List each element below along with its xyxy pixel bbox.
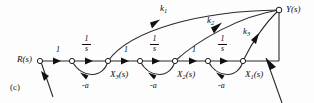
feedback-loops <box>72 61 243 80</box>
node-y[interactable] <box>276 7 282 13</box>
arrowhead-forward-6 <box>220 57 228 64</box>
gain-numerator-a: 1 <box>82 35 91 43</box>
node-label-x1: X1(s) <box>245 70 263 81</box>
node-n1[interactable] <box>69 58 74 63</box>
cropped-connector-left <box>41 62 53 97</box>
gain-denominator-c: s <box>218 45 227 53</box>
feedback-gain-label-2: -a <box>150 82 157 90</box>
gain-label-1-over-s-b: 1 s <box>150 35 159 54</box>
output-gain-label-k1: k1 <box>160 4 167 15</box>
arrowhead-forward-3 <box>121 57 129 64</box>
node-label-x2-tail: (s) <box>186 69 196 79</box>
node-x3[interactable] <box>105 58 110 63</box>
k2-sub: 2 <box>211 19 214 26</box>
feedback-loop-1 <box>72 61 108 75</box>
node-label-r: R(s) <box>17 55 32 64</box>
arrowhead-forward-5 <box>189 57 197 64</box>
arrowhead-forward-2 <box>85 57 93 64</box>
gain-label-3: 1 <box>192 46 196 54</box>
node-label-x2: X2(s) <box>177 70 195 81</box>
node-label-x3-tail: (s) <box>119 69 129 79</box>
gain-denominator-a: s <box>82 45 91 53</box>
signal-flow-graph-figure: R(s) X3(s) X2(s) X1(s) Y(s) 1 1 s 1 1 s … <box>0 0 314 103</box>
node-label-x3: X3(s) <box>110 70 128 81</box>
node-label-y: Y(s) <box>286 5 301 14</box>
node-n2[interactable] <box>137 58 142 63</box>
cropped-connectors <box>41 10 282 103</box>
panel-identifier: (c) <box>10 83 20 92</box>
node-n3[interactable] <box>205 58 210 63</box>
arrowhead-k1 <box>150 20 160 29</box>
node-x1[interactable] <box>240 58 245 63</box>
node-x2[interactable] <box>172 58 177 63</box>
feedback-gain-label-1: -a <box>82 82 89 90</box>
gain-label-2: 1 <box>124 46 128 54</box>
gain-label-1-over-s-c: 1 s <box>218 35 227 54</box>
arrowhead-cropped-right <box>266 58 276 70</box>
branch-k2 <box>175 10 279 61</box>
feedback-gain-label-3: -a <box>218 82 225 90</box>
arrowhead-forward-1 <box>53 57 61 64</box>
gain-label-1: 1 <box>56 46 60 54</box>
node-r[interactable] <box>37 58 42 63</box>
feedback-loop-3 <box>208 61 243 75</box>
gain-label-1-over-s-a: 1 s <box>82 35 91 54</box>
output-gain-label-k3: k3 <box>243 27 250 38</box>
arrowhead-forward-4 <box>152 57 160 64</box>
gain-numerator-b: 1 <box>150 35 159 43</box>
node-label-x1-tail: (s) <box>254 69 264 79</box>
output-gain-label-k2: k2 <box>207 16 214 27</box>
feedback-loop-2 <box>140 61 175 75</box>
k3-sub: 3 <box>247 30 250 37</box>
arrowhead-k3 <box>251 33 259 44</box>
gain-denominator-b: s <box>150 45 159 53</box>
k1-sub: 1 <box>164 7 167 14</box>
gain-numerator-c: 1 <box>218 35 227 43</box>
